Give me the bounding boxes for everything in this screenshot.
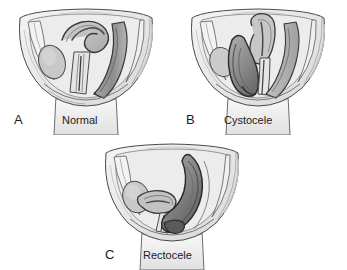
panel-c-letter: C (105, 248, 115, 261)
medical-illustration-figure: A Normal (0, 0, 347, 270)
panel-b-caption: Cystocele (224, 115, 272, 126)
panel-c-rectocele: C Rectocele (86, 135, 261, 270)
panel-a-letter: A (14, 113, 23, 126)
panel-b-cystocele: B Cystocele (174, 0, 347, 135)
panel-a-caption: Normal (62, 115, 97, 126)
panel-a-normal: A Normal (0, 0, 174, 135)
panel-b-letter: B (186, 113, 195, 126)
panel-c-caption: Rectocele (143, 250, 192, 261)
